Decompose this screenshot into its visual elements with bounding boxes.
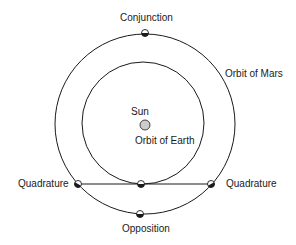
mars-conjunction-icon <box>142 30 149 37</box>
earth-icon <box>138 181 145 188</box>
quadrature-right-label: Quadrature <box>226 178 277 190</box>
orbit-mars-label: Orbit of Mars <box>225 68 283 80</box>
quadrature-left-label: Quadrature <box>18 178 69 190</box>
sun-label: Sun <box>131 106 149 118</box>
diagram-canvas <box>0 0 296 245</box>
orbit-earth-label: Orbit of Earth <box>135 135 194 147</box>
mars-opposition-icon <box>137 211 144 218</box>
conjunction-label: Conjunction <box>120 12 173 24</box>
mars-quadrature-left-icon <box>73 181 81 189</box>
sun-icon <box>140 120 150 130</box>
opposition-label: Opposition <box>122 223 170 235</box>
